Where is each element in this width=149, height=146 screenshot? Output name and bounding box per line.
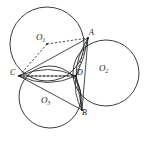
label-point-c: C (10, 69, 15, 77)
label-point-d: D (77, 69, 83, 77)
label-center-o1-subscript: 1 (43, 37, 46, 43)
label-center-o3-subscript: 3 (48, 100, 51, 106)
label-center-o2: O2 (99, 64, 108, 73)
geometry-figure: O1 O2 O3 A B C D (0, 0, 149, 146)
label-point-a: A (89, 29, 94, 37)
point-marker-c (18, 75, 20, 77)
label-point-b: B (82, 109, 87, 117)
label-center-o3-letter: O (41, 95, 48, 105)
circles-group (10, 7, 139, 128)
label-center-o2-subscript: 2 (106, 68, 109, 74)
label-center-o3: O3 (41, 96, 50, 105)
geometry-canvas (0, 0, 149, 146)
label-center-o2-letter: O (99, 63, 106, 73)
label-center-o1-letter: O (36, 32, 43, 42)
arc-lens-lower-cd (19, 76, 76, 83)
label-center-o1: O1 (36, 33, 45, 42)
point-marker-o1 (46, 43, 48, 45)
point-marker-a (87, 37, 89, 39)
